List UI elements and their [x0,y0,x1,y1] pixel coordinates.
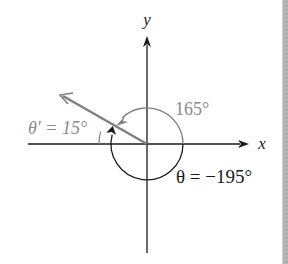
theta-label: θ = −195° [176,166,252,187]
positive-angle-arc [122,108,183,144]
page-edge-strip [282,0,288,264]
reference-angle-label: θ′ = 15° [28,118,87,138]
reference-angle-arc [99,132,101,144]
x-axis-label: x [257,134,266,153]
angle-diagram: y x 165° θ′ = 15° θ = −195° [0,0,288,264]
positive-angle-label: 165° [175,99,209,119]
x-axis [28,140,249,148]
y-axis-label: y [141,10,151,29]
